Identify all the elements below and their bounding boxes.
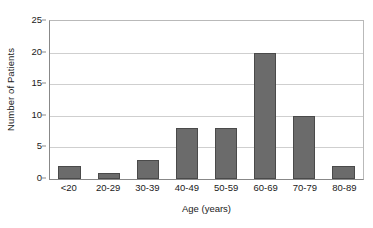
x-axis-tick-labels: <2020-2930-3940-4950-5960-6970-7980-89: [49, 182, 364, 193]
x-axis-tick-label: 40-49: [167, 182, 206, 193]
bar-slot: [167, 21, 206, 179]
y-axis-title-text: Number of Patients: [6, 47, 17, 130]
y-axis-tick-label: 10: [31, 110, 42, 120]
bar-slot: [285, 21, 324, 179]
bar: [176, 128, 198, 179]
x-axis-tick-label: 50-59: [207, 182, 246, 193]
y-axis-tick-label: 20: [31, 47, 42, 57]
bar-slot: [128, 21, 167, 179]
x-axis-tick-label: 60-69: [246, 182, 285, 193]
bar: [332, 166, 354, 179]
x-axis-tick-label: 20-29: [88, 182, 127, 193]
x-axis-tick-label: 30-39: [128, 182, 167, 193]
y-axis-tick-mark: [42, 114, 46, 115]
y-axis-tick-mark: [42, 83, 46, 84]
bar-slot: [207, 21, 246, 179]
bar-slot: [324, 21, 363, 179]
x-axis-title: Age (years): [49, 203, 364, 214]
bar-slot: [50, 21, 89, 179]
bar-slot: [89, 21, 128, 179]
plot-area: [49, 20, 364, 180]
bar: [58, 166, 80, 179]
bar: [98, 173, 120, 179]
bar-slot: [246, 21, 285, 179]
x-axis-tick-label: <20: [49, 182, 88, 193]
y-axis-tick-label: 25: [31, 15, 42, 25]
bar-chart-figure: Number of Patients 0510152025 <2020-2930…: [0, 0, 373, 228]
x-axis-tick-label: 70-79: [285, 182, 324, 193]
bar: [215, 128, 237, 179]
y-axis-tick-mark: [42, 178, 46, 179]
bar: [293, 116, 315, 179]
x-axis-tick-label: 80-89: [325, 182, 364, 193]
y-axis-tick-mark: [42, 20, 46, 21]
y-axis-tick-labels: 0510152025: [18, 0, 46, 182]
bar: [254, 53, 276, 179]
y-axis-tick-mark: [42, 51, 46, 52]
y-axis-tick-mark: [42, 146, 46, 147]
y-axis-tick-label: 15: [31, 78, 42, 88]
bar-series: [50, 21, 363, 179]
bar: [137, 160, 159, 179]
